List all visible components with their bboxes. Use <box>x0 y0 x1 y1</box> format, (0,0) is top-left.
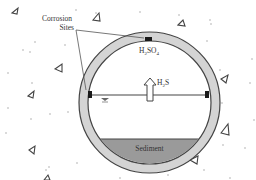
corrosion-marker-right <box>205 91 209 98</box>
triangle-aggregate-icon <box>221 75 228 83</box>
sewer-pipe-diagram: Sediment Corrosion Sites H2SO4 H2S <box>0 0 256 180</box>
up-arrow-icon <box>144 78 156 101</box>
corrosion-marker-left <box>88 91 92 98</box>
triangle-aggregate-icon <box>28 91 34 98</box>
water-level-icon <box>101 98 109 101</box>
triangle-aggregate-icon <box>55 64 62 72</box>
h2s-label: H2S <box>157 78 169 88</box>
sediment-label: Sediment <box>135 144 164 153</box>
triangle-aggregate-icon <box>12 8 18 14</box>
triangle-aggregate-icon <box>44 175 50 180</box>
h2so4-label: H2SO4 <box>139 46 160 56</box>
corrosion-marker-crown <box>145 37 152 41</box>
corrosion-sites-label-line2: Sites <box>59 23 74 32</box>
corrosion-sites-label-line1: Corrosion <box>42 14 72 23</box>
triangle-aggregate-icon <box>93 13 100 21</box>
triangle-aggregate-icon <box>178 20 185 26</box>
triangle-aggregate-icon <box>29 146 35 154</box>
triangle-aggregate-icon <box>221 124 229 135</box>
